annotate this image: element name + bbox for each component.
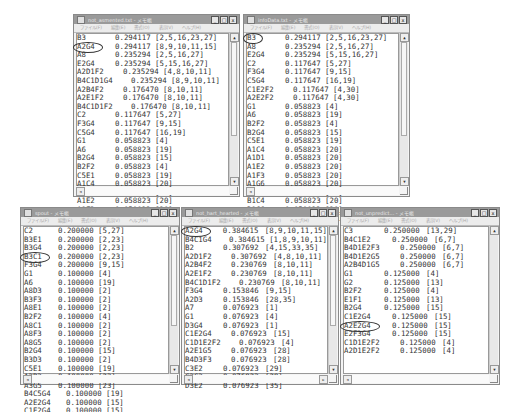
resize-grip[interactable]: [230, 187, 238, 195]
vertical-scrollbar[interactable]: ▲▼: [169, 226, 178, 374]
menu-edit[interactable]: 編集(E): [281, 24, 295, 32]
menu-help[interactable]: ヘルプ(H): [449, 217, 468, 225]
text-line: C20.117647[5,27]: [77, 111, 228, 120]
menu-view[interactable]: 表示(V): [159, 24, 174, 32]
vertical-scrollbar[interactable]: ▲▼: [399, 33, 408, 186]
scroll-left-arrow[interactable]: ◄: [343, 375, 352, 384]
scroll-up-arrow[interactable]: ▲: [490, 226, 499, 235]
minimize-button[interactable]: _: [151, 209, 159, 217]
close-button[interactable]: x: [399, 16, 407, 24]
menu-format[interactable]: 書式(O): [134, 24, 149, 32]
scroll-down-arrow[interactable]: ▼: [490, 365, 499, 374]
menu-view[interactable]: 表示(V): [267, 217, 282, 225]
notepad-icon: [77, 16, 85, 24]
scroll-thumb[interactable]: [330, 235, 336, 326]
notepad-window-4[interactable]: not_hart_hearted - メモ帳 _ □ x ファイル(F) 編集(…: [181, 207, 339, 385]
scroll-up-arrow[interactable]: ▲: [170, 226, 179, 235]
text-line: A1C40.058823[20]: [247, 146, 398, 155]
vertical-scrollbar[interactable]: ▲▼: [489, 226, 498, 374]
menu-edit[interactable]: 編集(E): [111, 24, 125, 32]
scroll-left-arrow[interactable]: ◄: [23, 375, 32, 384]
horizontal-scrollbar[interactable]: ◄►: [184, 375, 328, 383]
text-line: B4C1D1F20.176470[8,10,11]: [77, 103, 228, 112]
maximize-button[interactable]: □: [160, 209, 168, 217]
title-bar[interactable]: not_asmented.txt - メモ帳 _ □ x: [74, 15, 239, 24]
close-button[interactable]: x: [489, 209, 497, 217]
text-line: A1D10.058823[20]: [247, 154, 398, 163]
maximize-button[interactable]: □: [390, 16, 398, 24]
scroll-thumb[interactable]: [171, 235, 177, 326]
notepad-window-5[interactable]: not_unpredict... - メモ帳 _ □ x ファイル(F) 編集(…: [340, 207, 500, 385]
vertical-scrollbar[interactable]: ▲▼: [328, 226, 337, 374]
menu-file[interactable]: ファイル(F): [188, 217, 210, 225]
scroll-down-arrow[interactable]: ▼: [400, 177, 409, 186]
menu-view[interactable]: 表示(V): [426, 217, 441, 225]
menu-edit[interactable]: 編集(E): [219, 217, 233, 225]
menu-format[interactable]: 書式(O): [81, 217, 96, 225]
horizontal-scrollbar[interactable]: ◄: [23, 375, 169, 383]
scroll-down-arrow[interactable]: ▼: [329, 365, 338, 374]
scroll-left-arrow[interactable]: ◄: [76, 187, 85, 196]
notepad-window-3[interactable]: spout - メモ帳 _ □ x ファイル(F) 編集(E) 書式(O) 表示…: [20, 207, 180, 385]
scroll-up-arrow[interactable]: ▲: [230, 33, 239, 42]
title-bar[interactable]: not_unpredict... - メモ帳 _ □ x: [341, 208, 499, 217]
menu-file[interactable]: ファイル(F): [347, 217, 369, 225]
scroll-left-arrow[interactable]: ◄: [246, 187, 255, 196]
scroll-right-arrow[interactable]: ►: [319, 375, 328, 384]
scroll-up-arrow[interactable]: ▲: [400, 33, 409, 42]
text-line: B3F30.100000[2]: [24, 296, 168, 305]
menu-help[interactable]: ヘルプ(H): [129, 217, 148, 225]
menu-view[interactable]: 表示(V): [329, 24, 344, 32]
resize-grip[interactable]: [400, 187, 408, 195]
notepad-window-1[interactable]: not_asmented.txt - メモ帳 _ □ x ファイル(F) 編集(…: [73, 14, 240, 197]
scroll-down-arrow[interactable]: ▼: [170, 365, 179, 374]
text-line: A1F30.058823[20]: [247, 172, 398, 181]
title-bar[interactable]: spout - メモ帳 _ □ x: [21, 208, 179, 217]
close-button[interactable]: x: [169, 209, 177, 217]
scroll-down-arrow[interactable]: ▼: [230, 177, 239, 186]
close-button[interactable]: x: [328, 209, 336, 217]
title-bar[interactable]: infoData.txt - メモ帳 _ □ x: [244, 15, 409, 24]
window-title: spout - メモ帳: [35, 209, 69, 216]
minimize-button[interactable]: _: [381, 16, 389, 24]
maximize-button[interactable]: □: [480, 209, 488, 217]
minimize-button[interactable]: _: [471, 209, 479, 217]
text-area[interactable]: C30.250000[13,29]B4C1E20.250000[6,7]B4D1…: [343, 226, 489, 374]
menu-format[interactable]: 書式(O): [242, 217, 257, 225]
menu-file[interactable]: ファイル(F): [80, 24, 102, 32]
maximize-button[interactable]: □: [220, 16, 228, 24]
horizontal-scrollbar[interactable]: ◄: [76, 187, 229, 195]
menu-edit[interactable]: 編集(E): [378, 217, 392, 225]
notepad-window-2[interactable]: infoData.txt - メモ帳 _ □ x ファイル(F) 編集(E) 書…: [243, 14, 410, 197]
menu-edit[interactable]: 編集(E): [58, 217, 72, 225]
menu-help[interactable]: ヘルプ(H): [290, 217, 309, 225]
horizontal-scrollbar[interactable]: ◄: [246, 187, 399, 195]
minimize-button[interactable]: _: [211, 16, 219, 24]
text-area[interactable]: C20.200000[5,27]B3E10.200000[2,23]B3G40.…: [23, 226, 169, 374]
notepad-icon: [185, 209, 193, 217]
close-button[interactable]: x: [229, 16, 237, 24]
menu-file[interactable]: ファイル(F): [27, 217, 49, 225]
text-area[interactable]: B30.294117[2,5,16,23,27]A2G40.294117[8,9…: [76, 33, 229, 186]
maximize-button[interactable]: □: [319, 209, 327, 217]
text-area[interactable]: B30.294117[2,5,16,23,27]A80.235294[2,5,1…: [246, 33, 399, 186]
resize-grip[interactable]: [170, 375, 178, 383]
title-bar[interactable]: not_hart_hearted - メモ帳 _ □ x: [182, 208, 338, 217]
resize-grip[interactable]: [490, 375, 498, 383]
scroll-thumb[interactable]: [231, 42, 237, 136]
menu-help[interactable]: ヘルプ(H): [352, 24, 371, 32]
horizontal-scrollbar[interactable]: ◄: [343, 375, 489, 383]
text-area[interactable]: A2G40.384615[8,9,10,11,15]B4C1G40.384615…: [184, 226, 328, 374]
resize-grip[interactable]: [329, 375, 337, 383]
vertical-scrollbar[interactable]: ▲▼: [229, 33, 238, 186]
minimize-button[interactable]: _: [310, 209, 318, 217]
scroll-thumb[interactable]: [401, 42, 407, 136]
scroll-up-arrow[interactable]: ▲: [329, 226, 338, 235]
menu-help[interactable]: ヘルプ(H): [182, 24, 201, 32]
text-line: F3G40.117647[9,15]: [77, 120, 228, 129]
menu-format[interactable]: 書式(O): [401, 217, 416, 225]
scroll-left-arrow[interactable]: ◄: [184, 375, 193, 384]
menu-format[interactable]: 書式(O): [304, 24, 319, 32]
menu-file[interactable]: ファイル(F): [250, 24, 272, 32]
menu-view[interactable]: 表示(V): [106, 217, 121, 225]
